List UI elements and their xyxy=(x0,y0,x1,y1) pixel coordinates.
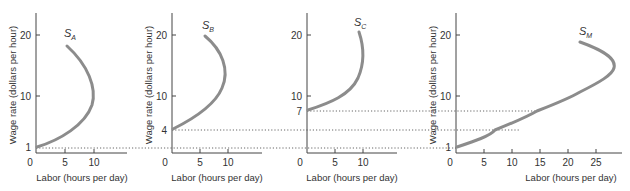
curve-label-m: SM xyxy=(579,25,592,39)
x-tick: 25 xyxy=(590,157,602,168)
supply-curve-c xyxy=(308,32,363,110)
x-tick: 10 xyxy=(222,157,234,168)
y-axis-label: Wage rate (dollars per hour) xyxy=(427,26,438,144)
supply-curve-m xyxy=(457,42,614,147)
supply-curve-a xyxy=(37,46,93,147)
y-tick: 7 xyxy=(296,106,302,117)
y-tick: 1 xyxy=(25,142,31,153)
x-tick: 5 xyxy=(197,157,203,168)
x-tick: 20 xyxy=(562,157,574,168)
y-tick: 20 xyxy=(156,30,168,41)
x-tick: 10 xyxy=(88,157,100,168)
y-tick: 10 xyxy=(156,91,168,102)
y-tick: 4 xyxy=(161,125,167,136)
y-axis-label: Wage rate (dollars per hour) xyxy=(143,26,154,144)
y-axis-label: Wage rate (dollars per hour) xyxy=(7,26,18,144)
panel-c: 20 10 7 0 5 10 Labor (hours per day) SC xyxy=(291,13,398,183)
x-axis-label: Labor (hours per day) xyxy=(36,172,127,183)
x-tick: 10 xyxy=(506,157,518,168)
y-tick: 1 xyxy=(445,142,451,153)
x-tick: 0 xyxy=(162,157,168,168)
x-axis-label: Labor (hours per day) xyxy=(306,172,397,183)
panel-m: 20 10 1 0 5 10 15 20 25 Labor (hours per… xyxy=(427,13,622,183)
curve-label-b: SB xyxy=(202,19,214,33)
panel-a: 20 10 1 0 5 10 Labor (hours per day) Wag… xyxy=(7,13,128,183)
y-tick: 20 xyxy=(20,30,32,41)
x-tick: 5 xyxy=(481,157,487,168)
supply-curve-b xyxy=(173,36,225,129)
x-tick: 5 xyxy=(62,157,68,168)
supply-curves-figure: 20 10 1 0 5 10 Labor (hours per day) Wag… xyxy=(0,0,630,191)
x-tick: 10 xyxy=(357,157,369,168)
x-axis-label: Labor (hours per day) xyxy=(525,172,616,183)
y-tick: 10 xyxy=(20,91,32,102)
y-tick: 10 xyxy=(291,91,303,102)
x-tick: 15 xyxy=(534,157,546,168)
y-tick: 10 xyxy=(440,91,452,102)
curve-label-a: SA xyxy=(64,27,76,41)
x-tick: 0 xyxy=(27,157,33,168)
y-tick: 20 xyxy=(440,30,452,41)
panel-b: 20 10 4 0 5 10 Labor (hours per day) Wag… xyxy=(143,13,263,183)
x-tick: 0 xyxy=(447,157,453,168)
x-tick: 0 xyxy=(297,157,303,168)
y-tick: 20 xyxy=(291,30,303,41)
x-axis-label: Labor (hours per day) xyxy=(171,172,262,183)
curve-label-c: SC xyxy=(354,16,367,30)
x-tick: 5 xyxy=(332,157,338,168)
